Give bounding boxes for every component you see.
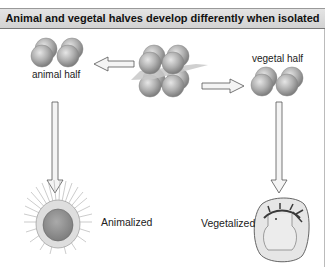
diagram-canvas [0,0,327,267]
animalized-embryo [24,180,92,254]
arrow-down-right-icon [271,102,287,193]
eight-cell-embryo [131,45,208,97]
arrow-down-left-icon [47,102,63,193]
vegetalized-embryo [254,198,309,262]
animalized-label: Animalized [101,216,152,228]
animal-half-cells [31,38,83,67]
vegetal-half-cells [251,67,303,96]
animal-half-label: animal half [32,69,80,80]
vegetal-half-label: vegetal half [252,53,303,64]
arrow-left-icon [94,57,134,71]
arrow-right-icon [202,79,244,93]
vegetalized-label: Vegetalized [201,217,255,229]
